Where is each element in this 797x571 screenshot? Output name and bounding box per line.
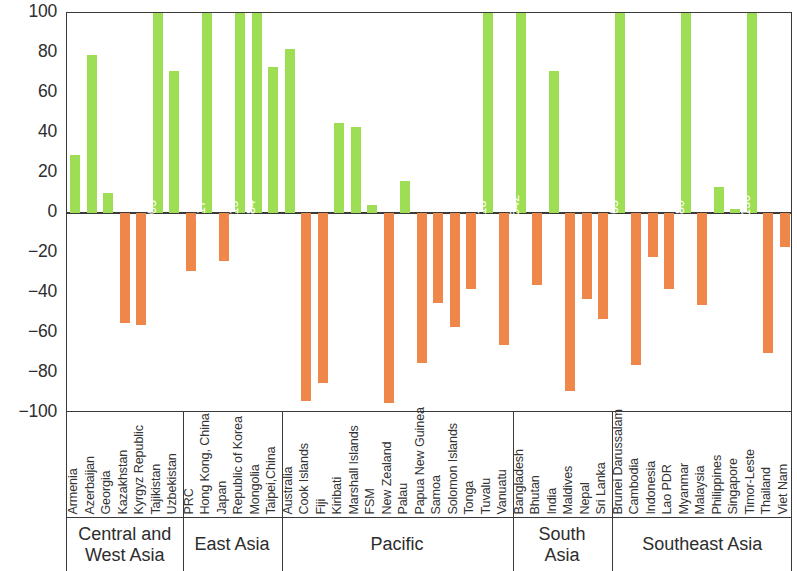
bar — [532, 213, 542, 285]
category-label: Singapore — [728, 458, 741, 515]
group-cell: SouthAsia — [513, 518, 612, 571]
y-tick-label: 40 — [38, 123, 57, 141]
bar — [631, 213, 641, 365]
category-label: Maldives — [563, 466, 576, 515]
group-name: East Asia — [191, 534, 272, 554]
y-tick-label: −80 — [28, 363, 57, 381]
bar — [714, 187, 724, 213]
bar-value-label: 384 — [244, 200, 257, 221]
bar — [186, 213, 196, 271]
category-group-divider — [183, 412, 184, 517]
category-label: Tuvalu — [480, 478, 493, 515]
plot-area: 1032171153841183,5424632803,130 — [66, 12, 792, 412]
category-label: Taipei,China — [266, 447, 279, 515]
category-label: Cook Islands — [299, 443, 312, 515]
category-label: Philippines — [711, 455, 724, 515]
y-tick-label: 60 — [38, 83, 57, 101]
bar — [136, 213, 146, 325]
bar — [334, 123, 344, 213]
category-label: Republic of Korea — [233, 417, 246, 515]
category-label: Papua New Guinea — [414, 407, 427, 515]
group-cell: Pacific — [282, 518, 513, 571]
category-label: Bhutan — [530, 476, 543, 515]
category-label: Myanmar — [678, 463, 691, 515]
y-axis: 100806040200−20−40−60−80−100 — [0, 0, 66, 420]
bar-value-label: 3,542 — [508, 194, 521, 225]
category-label: Uzbekistan — [167, 454, 180, 515]
bar — [285, 49, 295, 213]
group-cell: Southeast Asia — [612, 518, 794, 571]
bar — [598, 213, 608, 319]
category-label: Solomon Islands — [447, 423, 460, 515]
bar: 217 — [202, 12, 212, 213]
bar-chart: 100806040200−20−40−60−80−100 10321711538… — [0, 0, 797, 571]
group-name: SouthAsia — [535, 524, 588, 564]
group-cell: East Asia — [183, 518, 282, 571]
category-label: Tonga — [464, 481, 477, 515]
bar: 3,542 — [516, 12, 526, 213]
category-label: Samoa — [431, 476, 444, 515]
category-label: Palau — [398, 483, 411, 515]
category-label: Malaysia — [695, 466, 708, 515]
category-label: Brunei Darussalam — [612, 410, 625, 515]
bar — [780, 213, 790, 247]
category-label: Kiribati — [332, 477, 345, 515]
bar-value-label: 463 — [607, 200, 620, 221]
category-label: Nepal — [579, 483, 592, 515]
category-label-band: ArmeniaAzerbaijanGeorgiaKazakhstanKyrgyz… — [66, 412, 792, 517]
bar — [433, 213, 443, 303]
bar-value-label: 118 — [475, 200, 488, 220]
category-label: Sri Lanka — [596, 463, 609, 515]
bar: 384 — [252, 12, 262, 213]
bar-value-label: 280 — [673, 200, 686, 221]
y-tick-label: −40 — [28, 283, 57, 301]
bar — [648, 213, 658, 257]
category-label: FSM — [365, 489, 378, 515]
y-tick-label: 80 — [38, 43, 57, 61]
group-name: Pacific — [367, 534, 426, 554]
bar — [664, 213, 674, 289]
group-cell: Central andWest Asia — [67, 518, 183, 571]
category-label: Tajikistan — [150, 464, 163, 515]
category-label: Japan — [216, 481, 229, 515]
bar: 280 — [681, 12, 691, 213]
category-group-divider — [513, 412, 514, 517]
group-label-band: Central andWest AsiaEast AsiaPacificSout… — [66, 517, 792, 571]
y-tick-label: −20 — [28, 243, 57, 261]
category-group-divider — [282, 412, 283, 517]
category-label: Indonesia — [645, 461, 658, 515]
bar — [169, 71, 179, 213]
bar — [301, 213, 311, 401]
bar — [367, 205, 377, 213]
bar: 115 — [235, 12, 245, 213]
bar — [351, 127, 361, 213]
bar: 118 — [483, 12, 493, 213]
bar — [318, 213, 328, 383]
category-label: Armenia — [68, 469, 81, 515]
bar: 103 — [153, 12, 163, 213]
category-label: Lao PDR — [662, 465, 675, 515]
bar — [268, 67, 278, 213]
category-label: Hong Kong, China — [200, 414, 213, 515]
bar — [466, 213, 476, 289]
y-tick-label: 0 — [47, 203, 57, 221]
y-tick-label: 20 — [38, 163, 57, 181]
bar — [565, 213, 575, 391]
bar — [384, 213, 394, 403]
category-group-divider — [612, 412, 613, 517]
category-label: Australia — [282, 467, 295, 515]
bar-value-label: 103 — [145, 200, 158, 221]
category-label: Georgia — [101, 471, 114, 515]
bar-value-label: 217 — [195, 200, 208, 221]
category-label: India — [546, 488, 559, 515]
bar: 3,130 — [747, 12, 757, 213]
category-label: Cambodia — [629, 458, 642, 515]
bar — [120, 213, 130, 323]
y-tick-label: −100 — [18, 403, 57, 421]
bar — [103, 193, 113, 213]
y-tick-label: 100 — [28, 3, 57, 21]
category-label: Vanuatu — [497, 470, 510, 515]
category-label: New Zealand — [381, 442, 394, 515]
category-label: Bangladesh — [513, 449, 526, 515]
bar-value-label: 115 — [228, 200, 241, 220]
